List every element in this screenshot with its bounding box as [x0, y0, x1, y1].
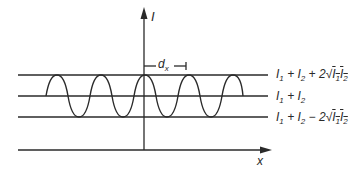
y-axis-label: I — [151, 10, 155, 23]
interference-diagram — [0, 0, 360, 171]
min-level-label: I1 + I2 − 2√I1I2 — [276, 111, 348, 126]
max-level-label: I1 + I2 + 2√I1I2 — [276, 68, 348, 83]
min-term: 2 — [343, 117, 347, 126]
min-term: + I — [284, 110, 301, 124]
sqrt-content: I1I2 — [332, 67, 348, 81]
x-axis-label-text: x — [257, 154, 263, 168]
mean-term: + I — [284, 89, 301, 103]
dx-sub: x — [165, 64, 169, 73]
fringe-spacing-label: dx — [158, 58, 169, 73]
x-axis-label: x — [257, 155, 263, 167]
y-axis-label-text: I — [151, 9, 155, 24]
mean-level-label: I1 + I2 — [276, 90, 305, 105]
x-axis-arrow-icon — [260, 147, 272, 154]
max-term: 2 — [343, 74, 347, 83]
y-axis-arrow-icon — [141, 7, 148, 19]
mean-term: 2 — [301, 96, 305, 105]
max-term: + I — [284, 67, 301, 81]
dx-main: d — [158, 57, 165, 71]
max-term: + 2 — [305, 67, 325, 81]
min-term: − 2 — [305, 110, 325, 124]
sqrt-content: I1I2 — [332, 110, 348, 124]
